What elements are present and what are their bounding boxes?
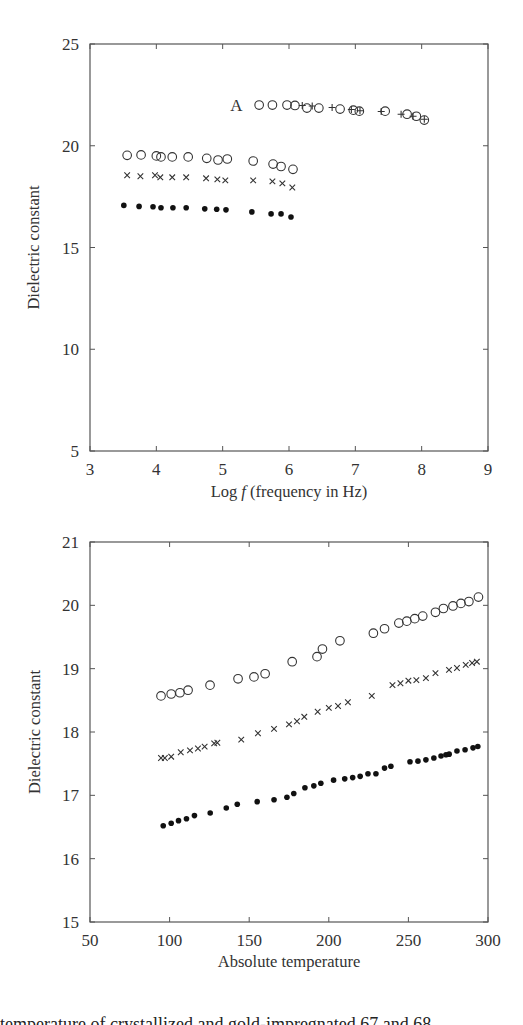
chart-top-frequency: 3456789510152025Log f (frequency in Hz)D… [24, 35, 492, 501]
y-tick-label: 18 [62, 723, 79, 742]
data-point [291, 101, 300, 110]
figure-caption: temperature of crystallized and gold-imp… [0, 1010, 523, 1025]
data-point [475, 744, 481, 750]
x-tick-label: 3 [86, 460, 95, 479]
data-point [345, 699, 351, 705]
data-point [215, 177, 221, 183]
data-point [311, 783, 317, 789]
data-point [136, 204, 142, 210]
x-tick-label: 50 [82, 931, 99, 950]
data-point [318, 645, 327, 654]
data-point [470, 745, 476, 751]
data-point [357, 774, 363, 780]
data-point [261, 669, 270, 678]
x-tick-label: 9 [484, 460, 493, 479]
data-point [158, 205, 164, 211]
series-cross [124, 172, 295, 190]
data-point [249, 157, 258, 166]
data-point [438, 753, 444, 759]
series-cross [158, 659, 479, 761]
series-circle-open [123, 151, 297, 174]
data-point [255, 101, 264, 110]
y-tick-label: 19 [62, 660, 79, 679]
y-tick-label: 10 [62, 340, 79, 359]
data-point [207, 810, 213, 816]
data-point [433, 670, 439, 676]
plot-frame [90, 44, 488, 451]
data-point [318, 781, 324, 787]
data-point [390, 682, 396, 688]
data-point [286, 722, 292, 728]
data-point [162, 755, 168, 761]
y-tick-label: 5 [71, 442, 80, 461]
data-point [192, 813, 198, 819]
y-tick-label: 21 [62, 533, 79, 552]
data-point [184, 686, 193, 695]
y-tick-label: 16 [62, 850, 79, 869]
data-point [315, 104, 324, 113]
data-point [206, 681, 215, 690]
data-point [382, 765, 388, 771]
data-point [183, 205, 189, 211]
data-point [255, 730, 261, 736]
series-circle-open [157, 593, 483, 700]
data-point [195, 746, 201, 752]
data-point [214, 156, 223, 165]
data-point [454, 665, 460, 671]
data-point [462, 747, 468, 753]
series-annotation: A [230, 96, 243, 115]
series-circle-open [255, 101, 429, 125]
data-point [474, 593, 483, 602]
data-point [350, 775, 356, 781]
chart-bottom-temperature: 5010015020025030015161718192021Absolute … [25, 533, 501, 971]
data-point [169, 174, 175, 180]
data-point [214, 206, 220, 212]
data-point [269, 160, 278, 169]
data-point [423, 675, 429, 681]
data-point [406, 678, 412, 684]
data-point [403, 617, 412, 626]
data-point [294, 718, 300, 724]
data-point [342, 776, 348, 782]
x-axis-label: Log f (frequency in Hz) [211, 482, 368, 501]
data-point [457, 599, 466, 608]
data-point [288, 214, 294, 220]
data-point [223, 207, 229, 213]
data-point [299, 102, 306, 109]
y-tick-label: 20 [62, 137, 79, 156]
data-point [160, 823, 166, 829]
series-dot [160, 744, 480, 829]
data-point [271, 726, 277, 732]
data-point [313, 652, 322, 661]
data-point [123, 151, 132, 160]
data-point [234, 801, 240, 807]
series-dot [121, 203, 294, 220]
y-tick-label: 15 [62, 913, 79, 932]
y-tick-label: 17 [62, 786, 80, 805]
data-point [463, 662, 469, 668]
data-point [202, 744, 208, 750]
data-point [369, 629, 378, 638]
data-point [168, 754, 174, 760]
data-point [280, 181, 286, 187]
data-point [249, 209, 255, 215]
data-point [380, 624, 389, 633]
data-point [277, 162, 286, 171]
data-point [203, 176, 209, 182]
data-point [178, 749, 184, 755]
x-axis-label: Absolute temperature [218, 952, 361, 971]
data-point [158, 174, 164, 180]
data-point [290, 185, 296, 191]
data-point [315, 709, 321, 715]
x-tick-label: 8 [417, 460, 426, 479]
data-point [223, 178, 229, 184]
data-point [407, 759, 413, 765]
data-point [335, 703, 341, 709]
x-tick-label: 6 [285, 460, 294, 479]
data-point [301, 714, 307, 720]
data-point [446, 751, 452, 757]
data-point [410, 113, 417, 120]
data-point [291, 791, 297, 797]
data-point [184, 153, 193, 162]
data-point [373, 771, 379, 777]
